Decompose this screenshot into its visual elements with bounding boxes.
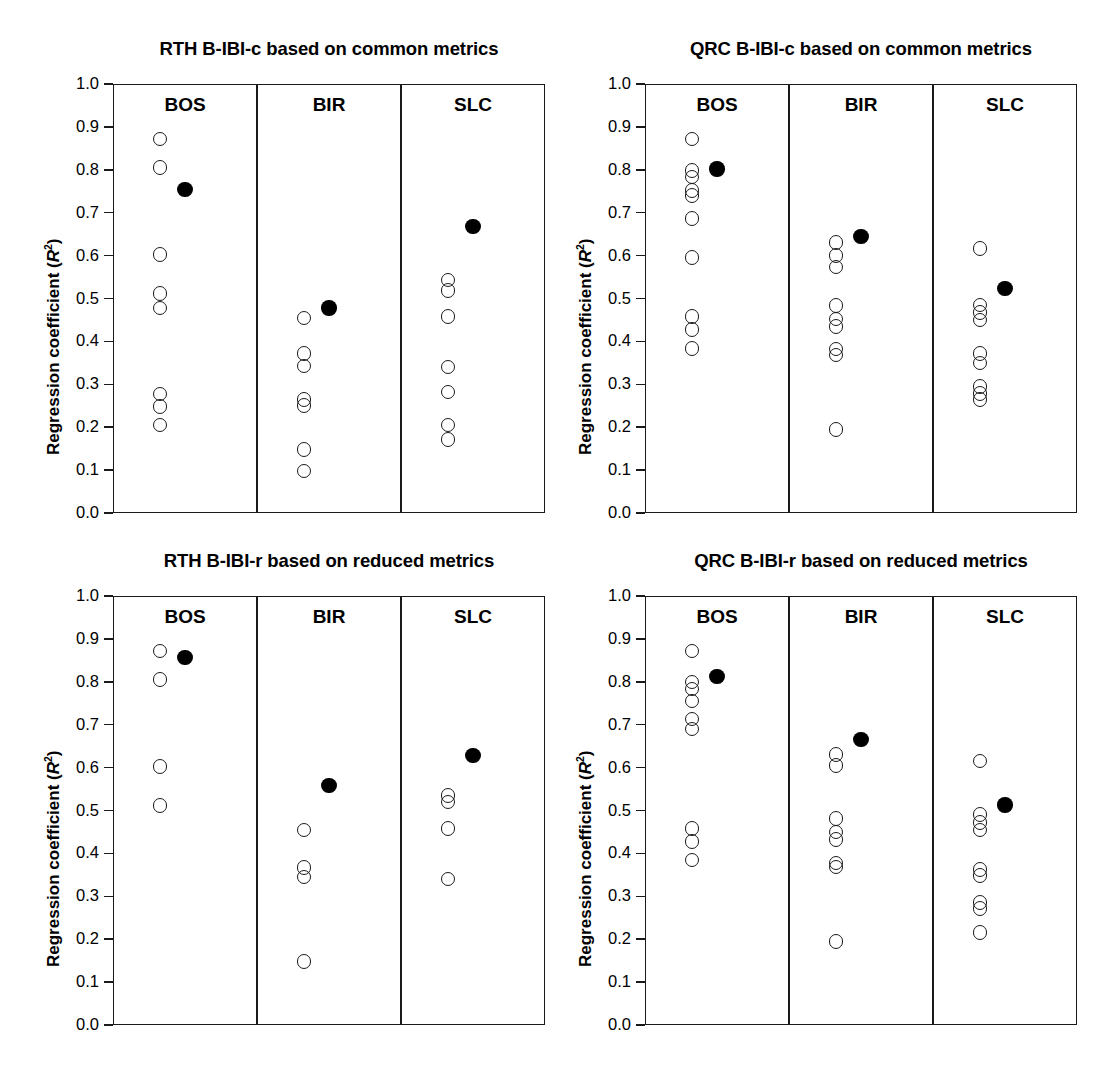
plot-frame: [645, 84, 1077, 513]
y-axis-tick: [636, 810, 645, 812]
data-point-open: [153, 132, 168, 147]
y-axis-tick: [104, 896, 113, 898]
data-point-open: [685, 682, 700, 697]
data-point-open: [973, 862, 988, 877]
y-axis-tick-label: 0.4: [581, 843, 631, 862]
panel-title: QRC B-IBI-c based on common metrics: [575, 38, 1120, 60]
data-point-open: [829, 235, 844, 250]
y-axis-label-symbol: R: [44, 250, 63, 262]
data-point-open: [297, 464, 312, 479]
group-divider: [788, 84, 790, 513]
y-axis-tick-label: 1.0: [49, 74, 99, 93]
data-point-open: [441, 283, 456, 298]
group-label-bir: BIR: [257, 606, 401, 628]
y-axis-tick: [104, 212, 113, 214]
y-axis-tick-label: 0.0: [581, 503, 631, 522]
y-axis-tick-label: 0.6: [49, 246, 99, 265]
data-point-open: [441, 385, 456, 400]
y-axis-tick: [636, 1024, 645, 1026]
data-point-open: [441, 418, 456, 433]
y-axis-tick: [636, 595, 645, 597]
data-point-open: [685, 309, 700, 324]
y-axis-tick-label: 0.9: [581, 629, 631, 648]
y-axis-tick: [104, 981, 113, 983]
data-point-open: [153, 160, 168, 175]
y-axis-tick: [104, 469, 113, 471]
data-point-open: [441, 795, 456, 810]
y-axis-label: Regression coefficient (R2): [42, 238, 64, 455]
y-axis-tick: [636, 981, 645, 983]
y-axis-tick-label: 0.0: [49, 503, 99, 522]
y-axis-tick-label: 0.1: [581, 972, 631, 991]
y-axis-tick: [636, 896, 645, 898]
data-point-open: [973, 901, 988, 916]
y-axis-tick: [636, 767, 645, 769]
data-point-filled: [321, 300, 336, 315]
data-point-open: [829, 248, 844, 263]
group-label-bos: BOS: [113, 94, 257, 116]
data-point-open: [441, 432, 456, 447]
data-point-open: [973, 754, 988, 769]
y-axis-tick: [104, 255, 113, 257]
y-axis-tick: [636, 512, 645, 514]
y-axis-tick-label: 0.2: [581, 417, 631, 436]
data-point-open: [829, 342, 844, 357]
data-point-filled: [997, 281, 1012, 296]
y-axis-tick-label: 0.1: [49, 460, 99, 479]
y-axis-tick-label: 0.2: [581, 929, 631, 948]
y-axis-tick: [104, 853, 113, 855]
y-axis-tick-label: 0.2: [49, 929, 99, 948]
data-point-open: [441, 309, 456, 324]
data-point-open: [829, 422, 844, 437]
data-point-open: [685, 132, 700, 147]
data-point-filled: [465, 748, 480, 763]
chart-panel-1: RTH B-IBI-c based on common metricsRegre…: [0, 0, 1120, 1086]
data-point-open: [297, 311, 312, 326]
y-axis-tick-label: 0.0: [581, 1015, 631, 1034]
data-point-filled: [465, 219, 480, 234]
group-label-bir: BIR: [789, 606, 933, 628]
data-point-open: [297, 346, 312, 361]
chart-panel-3: RTH B-IBI-r based on reduced metricsRegr…: [0, 0, 1120, 1086]
y-axis-tick: [104, 298, 113, 300]
data-point-open: [685, 644, 700, 659]
group-label-slc: SLC: [401, 606, 545, 628]
data-point-open: [685, 675, 700, 690]
y-axis-tick: [636, 384, 645, 386]
y-axis-tick-label: 1.0: [581, 586, 631, 605]
data-point-open: [973, 356, 988, 371]
data-point-open: [973, 241, 988, 256]
data-point-open: [973, 379, 988, 394]
data-point-open: [973, 807, 988, 822]
y-axis-tick: [636, 126, 645, 128]
plot-frame: [113, 84, 545, 513]
y-axis-tick: [104, 638, 113, 640]
data-point-open: [829, 260, 844, 275]
y-axis-tick-label: 0.3: [581, 886, 631, 905]
y-axis-tick: [636, 212, 645, 214]
data-point-open: [153, 672, 168, 687]
y-axis-tick-label: 0.8: [49, 672, 99, 691]
y-axis-tick: [104, 595, 113, 597]
y-axis-label-prefix: Regression coefficient (: [44, 262, 63, 455]
data-point-open: [973, 392, 988, 407]
data-point-open: [153, 301, 168, 316]
data-point-open: [829, 312, 844, 327]
data-point-open: [685, 250, 700, 265]
data-point-open: [973, 925, 988, 940]
y-axis-tick-label: 0.6: [581, 246, 631, 265]
y-axis-tick-label: 0.5: [49, 801, 99, 820]
group-divider: [788, 596, 790, 1025]
y-axis-tick-label: 0.8: [581, 160, 631, 179]
y-axis-tick-label: 0.7: [581, 715, 631, 734]
y-axis-label-suffix: ): [576, 750, 595, 756]
chart-panel-2: QRC B-IBI-c based on common metricsRegre…: [0, 0, 1120, 1086]
y-axis-tick-label: 0.4: [49, 331, 99, 350]
data-point-open: [685, 712, 700, 727]
group-label-slc: SLC: [933, 606, 1077, 628]
y-axis-tick-label: 0.1: [49, 972, 99, 991]
y-axis-label-exponent: 2: [574, 244, 586, 250]
data-point-filled: [177, 650, 192, 665]
group-divider: [400, 596, 402, 1025]
y-axis-label: Regression coefficient (R2): [574, 750, 596, 967]
